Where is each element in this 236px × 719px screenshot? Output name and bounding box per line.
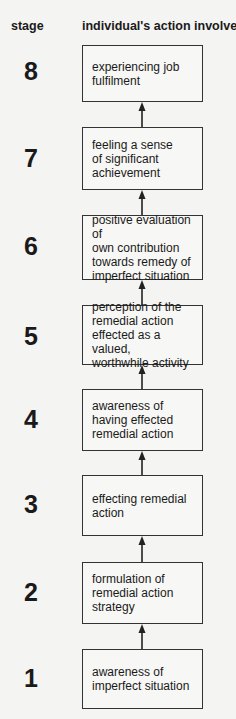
arrow-up-icon [137, 536, 147, 562]
arrow-up-icon [137, 102, 147, 127]
header-action: individual's action involves: [82, 19, 236, 33]
arrow-up-icon [137, 190, 147, 215]
stage-box-8: experiencing job fulfilment [82, 45, 203, 102]
stage-number-6: 6 [14, 234, 48, 259]
arrow-up-icon [137, 624, 147, 649]
stage-number-2: 2 [14, 580, 48, 605]
stage-box-5: perception of the remedial action effect… [82, 305, 203, 365]
stage-box-1: awareness of imperfect situation [82, 649, 203, 709]
stage-box-3: effecting remedial action [82, 475, 203, 536]
stage-number-3: 3 [14, 492, 48, 517]
arrow-up-icon [137, 451, 147, 475]
header-stage: stage [11, 19, 44, 33]
arrow-up-icon [137, 365, 147, 389]
stage-number-7: 7 [14, 146, 48, 171]
stage-number-5: 5 [14, 324, 48, 349]
stage-box-2: formulation of remedial action strategy [82, 562, 203, 624]
stage-number-1: 1 [14, 666, 48, 691]
stage-box-6: positive evaluation of own contribution … [82, 215, 203, 280]
stage-box-4: awareness of having effected remedial ac… [82, 389, 203, 451]
stage-box-7: feeling a sense of significant achieveme… [82, 127, 203, 190]
stage-number-4: 4 [14, 407, 48, 432]
stage-number-8: 8 [14, 59, 48, 84]
